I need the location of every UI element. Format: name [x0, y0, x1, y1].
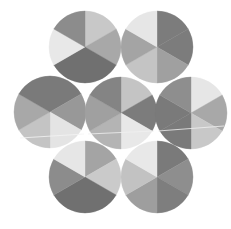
circle-middle-left — [14, 76, 86, 148]
circle-top-right — [121, 11, 193, 83]
circle-cluster-figure — [0, 0, 231, 229]
circle-bottom-left — [49, 141, 121, 213]
circle-top-left — [49, 11, 121, 83]
figure-svg — [0, 0, 231, 229]
circle-bottom-right — [121, 141, 193, 213]
circle-middle-right — [155, 77, 227, 149]
circle-center — [85, 77, 157, 149]
